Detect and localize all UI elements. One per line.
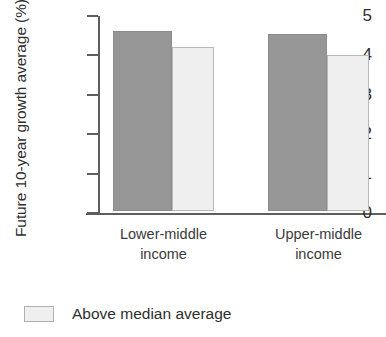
x-axis-line — [86, 213, 386, 215]
y-axis-tick — [87, 15, 98, 17]
bar — [327, 55, 369, 211]
x-axis-category-label: Upper-middleincome — [244, 224, 386, 264]
legend: Above median average — [24, 305, 231, 323]
bar — [113, 31, 172, 211]
bar — [172, 47, 214, 211]
x-axis-category-label: Lower-middleincome — [89, 224, 239, 264]
bar — [268, 34, 327, 211]
x-axis-category-label-line: income — [89, 244, 239, 264]
y-axis-tick — [87, 54, 98, 56]
y-axis-tick — [87, 173, 98, 175]
x-axis-category-label-line: Upper-middle — [244, 224, 386, 244]
legend-label-above-median-average: Above median average — [72, 305, 231, 323]
plot-area: 012345 — [98, 16, 386, 213]
legend-swatch-above-median-average — [24, 306, 54, 322]
bar-chart-figure: Future 10-year growth average (%) 012345… — [0, 0, 386, 337]
y-axis-title: Future 10-year growth average (%) — [9, 7, 33, 237]
y-axis-line — [98, 16, 100, 214]
x-axis-category-label-line: income — [244, 244, 386, 264]
x-axis-category-label-line: Lower-middle — [89, 224, 239, 244]
y-axis-tick — [87, 133, 98, 135]
y-axis-tick-label: 5 — [342, 6, 372, 26]
y-axis-tick — [87, 94, 98, 96]
y-axis-tick — [87, 212, 98, 214]
